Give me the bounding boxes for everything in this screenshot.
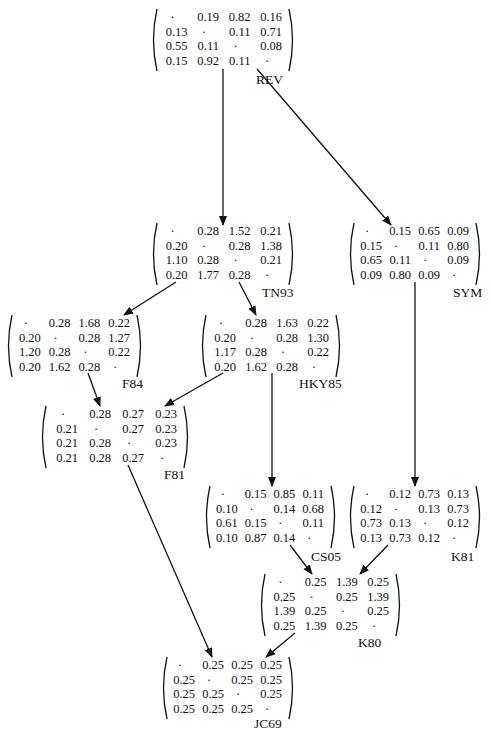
matrix-cell: · — [208, 487, 238, 501]
model-hierarchy-diagram: ·0.190.820.160.13·0.110.710.550.11·0.080… — [0, 0, 490, 729]
matrix-cell: 0.19 — [189, 10, 219, 24]
matrix-cell: 1.39 — [328, 575, 358, 589]
arrow-k81-to-k80 — [360, 545, 388, 574]
matrix-cell: 0.80 — [381, 268, 411, 282]
matrix-cell: 0.28 — [221, 239, 251, 253]
right-parenthesis — [395, 573, 403, 637]
matrix-cell: · — [194, 673, 224, 687]
matrix-cell: 0.25 — [297, 575, 327, 589]
matrix-cell: 0.25 — [265, 619, 295, 633]
matrix-cell: 1.39 — [265, 604, 295, 618]
matrix-cell: 0.28 — [237, 345, 267, 359]
model-label: F84 — [122, 376, 143, 392]
matrix-cell: 0.11 — [221, 25, 251, 39]
matrix-cell: 1.62 — [237, 360, 267, 374]
matrix-cell: · — [147, 451, 177, 465]
matrix-cell: 0.28 — [70, 360, 100, 374]
arrow-cs05-to-k80 — [290, 545, 312, 574]
matrix-cell: · — [265, 575, 295, 589]
matrix-cell: 0.28 — [81, 407, 111, 421]
matrix-cell: · — [265, 516, 295, 530]
matrix-cell: · — [81, 422, 111, 436]
matrix-cell: 0.28 — [41, 345, 71, 359]
matrix-cell: · — [252, 268, 282, 282]
matrix-cell: 0.25 — [223, 658, 253, 672]
matrix-cell: 0.11 — [381, 253, 411, 267]
model-label: K80 — [358, 635, 381, 651]
matrix-cell: 0.28 — [268, 360, 298, 374]
matrix-cell: 0.85 — [265, 487, 295, 501]
matrix-cell: · — [237, 502, 267, 516]
matrix-cell: 0.14 — [265, 502, 295, 516]
matrix-cell: 0.21 — [252, 224, 282, 238]
matrix-cell: 0.28 — [70, 331, 100, 345]
model-label: HKY85 — [299, 376, 342, 392]
matrix-cell: 0.28 — [81, 436, 111, 450]
matrix-cell: 0.82 — [221, 10, 251, 24]
matrix-cell: 0.16 — [252, 10, 282, 24]
matrix-cell: 0.15 — [381, 224, 411, 238]
matrix-cell: · — [41, 331, 71, 345]
matrix-cell: 1.39 — [359, 590, 389, 604]
matrix-cell: 0.11 — [410, 239, 440, 253]
right-parenthesis — [475, 222, 483, 286]
right-parenthesis — [475, 485, 483, 549]
matrix-cell: 0.13 — [352, 531, 382, 545]
matrix-cell: 0.87 — [237, 531, 267, 545]
matrix-cell: · — [359, 619, 389, 633]
matrix-cell: · — [381, 502, 411, 516]
matrix-cell: 0.09 — [352, 268, 382, 282]
model-label: SYM — [453, 285, 482, 301]
arrow-rev-to-sym — [257, 69, 391, 225]
matrix-cell: 1.39 — [297, 619, 327, 633]
matrix-cell: 0.25 — [194, 658, 224, 672]
matrix-cell: 0.28 — [81, 451, 111, 465]
rate-matrix-sym: ·0.150.650.090.15·0.110.800.650.11·0.090… — [347, 222, 483, 286]
matrix-cell: · — [158, 10, 188, 24]
matrix-cell: · — [48, 407, 78, 421]
matrix-cell: 0.25 — [165, 687, 195, 701]
matrix-cell: 0.13 — [381, 516, 411, 530]
matrix-cell: · — [189, 239, 219, 253]
matrix-cell: 0.13 — [158, 25, 188, 39]
matrix-cell: · — [70, 345, 100, 359]
model-label: REV — [256, 72, 283, 88]
matrix-cell: 0.22 — [100, 345, 130, 359]
matrix-cell: 0.13 — [410, 502, 440, 516]
model-label: F81 — [164, 467, 185, 483]
right-parenthesis — [183, 405, 191, 469]
matrix-cell: 1.27 — [100, 331, 130, 345]
matrix-cell: 0.23 — [147, 436, 177, 450]
matrix-cell: 1.17 — [206, 345, 236, 359]
matrix-cell: · — [268, 345, 298, 359]
rate-matrix-f81: ·0.280.270.230.21·0.270.230.210.28·0.230… — [39, 405, 191, 469]
matrix-cell: 0.20 — [206, 331, 236, 345]
arrow-tn93-to-hky85 — [239, 282, 256, 315]
matrix-cell: 1.10 — [158, 253, 188, 267]
matrix-cell: 0.21 — [48, 451, 78, 465]
matrix-cell: · — [11, 316, 41, 330]
model-label: JC69 — [254, 716, 282, 729]
matrix-cell: · — [189, 25, 219, 39]
rate-matrix-cs05: ·0.150.850.110.10·0.140.680.610.15·0.110… — [203, 485, 338, 549]
matrix-cell: 0.20 — [158, 268, 188, 282]
right-parenthesis — [136, 314, 144, 378]
matrix-cell: 1.30 — [299, 331, 329, 345]
matrix-cell: 0.12 — [439, 516, 469, 530]
matrix-cell: 0.73 — [439, 502, 469, 516]
model-label: TN93 — [262, 285, 294, 301]
matrix-cell: 0.20 — [206, 360, 236, 374]
matrix-cell: 0.12 — [410, 531, 440, 545]
rate-matrix-jc69: ·0.250.250.250.25·0.250.250.250.25·0.250… — [160, 656, 296, 720]
matrix-cell: 0.28 — [268, 331, 298, 345]
matrix-cell: 0.13 — [439, 487, 469, 501]
rate-matrix-f84: ·0.281.680.220.20·0.281.271.200.28·0.220… — [5, 314, 144, 378]
arrow-tn93-to-f84 — [124, 282, 176, 315]
matrix-cell: 0.11 — [294, 487, 324, 501]
rate-matrix-tn93: ·0.281.520.210.20·0.281.381.100.28·0.210… — [150, 222, 296, 286]
matrix-cell: 0.28 — [189, 224, 219, 238]
matrix-cell: 0.11 — [189, 39, 219, 53]
matrix-cell: · — [381, 239, 411, 253]
matrix-cell: · — [410, 253, 440, 267]
matrix-cell: 0.11 — [221, 54, 251, 68]
